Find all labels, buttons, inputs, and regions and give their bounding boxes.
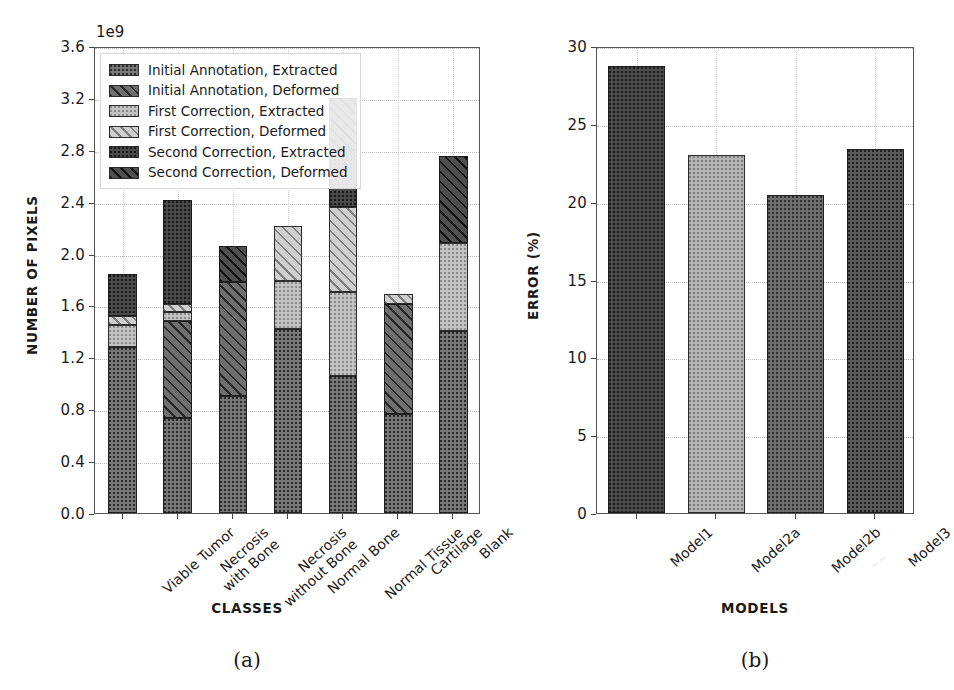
y-tick-label: 0.8 <box>61 401 85 419</box>
bar-segment[interactable] <box>329 292 358 375</box>
legend-item[interactable]: Second Correction, Deformed <box>109 163 352 184</box>
legend-swatch-icon <box>109 64 139 76</box>
bar-segment[interactable] <box>384 294 413 304</box>
y-tick-label: 2.4 <box>61 194 85 212</box>
x-tick-label-line: Model3 <box>905 524 954 570</box>
paper-scan-artifact: ~~ <box>868 551 891 573</box>
legend-item[interactable]: First Correction, Deformed <box>109 122 352 143</box>
x-tick-mark <box>177 514 178 519</box>
y-tick-label: 0 <box>577 505 587 523</box>
y-tick-mark <box>591 203 596 204</box>
y-tick-mark <box>591 281 596 282</box>
plot-area-b <box>596 47 914 514</box>
y-axis-offset-label-a: 1e9 <box>96 23 124 41</box>
y-tick-mark <box>89 306 94 307</box>
bar[interactable] <box>847 149 904 513</box>
x-tick-label-line: Model2a <box>749 524 804 576</box>
bar[interactable] <box>439 156 468 513</box>
x-tick-label: Model2a <box>749 524 804 576</box>
legend-label: First Correction, Deformed <box>148 125 326 139</box>
y-tick-label: 3.2 <box>61 90 85 108</box>
x-tick-mark <box>122 514 123 519</box>
y-tick-mark <box>89 47 94 48</box>
y-tick-label: 2.0 <box>61 246 85 264</box>
bar[interactable] <box>108 274 137 513</box>
x-tick-mark <box>452 514 453 519</box>
y-tick-label: 10 <box>568 349 588 367</box>
y-tick-label: 25 <box>568 116 588 134</box>
bar-segment[interactable] <box>163 418 192 513</box>
bar-segment[interactable] <box>163 200 192 304</box>
x-tick-mark <box>636 514 637 519</box>
legend-label: Initial Annotation, Deformed <box>148 84 339 98</box>
bar-segment[interactable] <box>274 329 303 513</box>
y-gridline <box>95 48 479 49</box>
x-tick-mark <box>715 514 716 519</box>
y-tick-mark <box>591 436 596 437</box>
y-axis-title-a: NUMBER OF PIXELS <box>24 195 40 355</box>
bar-segment[interactable] <box>439 156 468 243</box>
bar-segment[interactable] <box>384 414 413 513</box>
bar-segment[interactable] <box>329 376 358 514</box>
panel-a-stacked-bar-chart: 1e9 NUMBER OF PIXELS CLASSES (a) 0.00.40… <box>0 0 500 690</box>
y-tick-mark <box>89 151 94 152</box>
legend-label: First Correction, Extracted <box>148 105 324 119</box>
y-gridline <box>597 48 913 49</box>
x-tick-mark <box>232 514 233 519</box>
x-axis-title-a: CLASSES <box>211 600 283 616</box>
bar[interactable] <box>688 155 745 513</box>
x-tick-label: Model1 <box>667 524 716 570</box>
y-tick-mark <box>591 514 596 515</box>
x-tick-label-line: Model1 <box>667 524 716 570</box>
bar-segment[interactable] <box>108 316 137 325</box>
bar-segment[interactable] <box>439 331 468 513</box>
bar[interactable] <box>767 195 824 513</box>
bar[interactable] <box>219 246 248 513</box>
bar-segment[interactable] <box>219 396 248 513</box>
y-tick-mark <box>591 125 596 126</box>
bar-segment[interactable] <box>439 243 468 331</box>
y-tick-label: 2.8 <box>61 142 85 160</box>
legend-item[interactable]: First Correction, Extracted <box>109 101 352 122</box>
y-tick-label: 1.2 <box>61 349 85 367</box>
legend-label: Initial Annotation, Extracted <box>148 64 338 78</box>
bar[interactable] <box>384 294 413 513</box>
bar[interactable] <box>163 200 192 513</box>
bar-segment[interactable] <box>108 325 137 347</box>
x-tick-mark <box>795 514 796 519</box>
bar-segment[interactable] <box>108 347 137 513</box>
bar[interactable] <box>274 226 303 513</box>
y-tick-mark <box>591 358 596 359</box>
bar-segment[interactable] <box>163 312 192 321</box>
legend-item[interactable]: Initial Annotation, Extracted <box>109 60 352 81</box>
y-tick-mark <box>591 47 596 48</box>
y-gridline <box>95 204 479 205</box>
bar-segment[interactable] <box>219 282 248 396</box>
bar-segment[interactable] <box>108 274 137 316</box>
bar-segment[interactable] <box>329 207 358 293</box>
y-tick-label: 5 <box>577 427 587 445</box>
bar-segment[interactable] <box>274 226 303 280</box>
x-tick-mark <box>397 514 398 519</box>
legend-swatch-icon <box>109 126 139 138</box>
y-tick-label: 20 <box>568 194 588 212</box>
y-tick-mark <box>89 358 94 359</box>
x-tick-label: Model3 <box>905 524 954 570</box>
bar[interactable] <box>608 66 665 513</box>
legend-item[interactable]: Initial Annotation, Deformed <box>109 81 352 102</box>
x-tick-mark <box>342 514 343 519</box>
legend-label: Second Correction, Extracted <box>148 146 346 160</box>
bar-segment[interactable] <box>163 321 192 418</box>
y-tick-label: 0.0 <box>61 505 85 523</box>
subcaption-a: (a) <box>233 648 261 672</box>
legend-item[interactable]: Second Correction, Extracted <box>109 142 352 163</box>
bar-segment[interactable] <box>384 304 413 414</box>
legend-swatch-icon <box>109 167 139 179</box>
y-tick-mark <box>89 462 94 463</box>
legend-swatch-icon <box>109 105 139 117</box>
bar-segment[interactable] <box>219 246 248 282</box>
bar-segment[interactable] <box>274 281 303 329</box>
bar-segment[interactable] <box>163 304 192 312</box>
y-tick-label: 3.6 <box>61 38 85 56</box>
